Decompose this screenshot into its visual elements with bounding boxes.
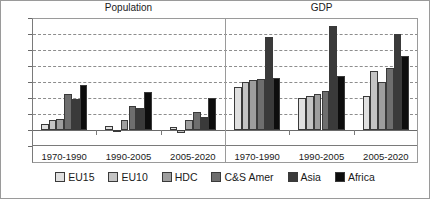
- bar: [314, 94, 322, 130]
- bar: [370, 71, 378, 130]
- bar: [41, 124, 49, 130]
- bar: [249, 80, 257, 130]
- bar: [363, 96, 371, 130]
- legend-item-africa[interactable]: Africa: [335, 171, 375, 183]
- bar: [144, 92, 152, 130]
- legend-label: HDC: [175, 171, 198, 183]
- bar: [234, 87, 242, 130]
- bar: [185, 120, 193, 130]
- y-tick: [28, 130, 32, 131]
- bar: [80, 85, 88, 130]
- legend-item-hdc[interactable]: HDC: [162, 171, 198, 183]
- panel-title-population: Population: [105, 2, 152, 13]
- bar: [306, 96, 314, 130]
- legend-swatch-icon: [108, 172, 118, 182]
- x-tick: [96, 130, 97, 135]
- bar: [72, 99, 80, 130]
- legend-item-eu10[interactable]: EU10: [108, 171, 147, 183]
- bar: [208, 98, 216, 130]
- legend-item-asia[interactable]: Asia: [288, 171, 321, 183]
- bar: [105, 126, 113, 130]
- y-tick: [28, 66, 32, 67]
- panel-separator: [225, 18, 226, 163]
- bar: [170, 127, 178, 130]
- y-tick: [28, 50, 32, 51]
- panel-title-gdp: GDP: [311, 2, 333, 13]
- bar-chart: -101234567 PopulationGDP 1970-19901990-2…: [0, 0, 430, 199]
- bar: [322, 91, 330, 130]
- bar: [121, 120, 129, 130]
- bar: [401, 56, 409, 130]
- legend-swatch-icon: [162, 172, 172, 182]
- legend-label: EU15: [68, 171, 94, 183]
- legend-label: C&S Amer: [224, 171, 273, 183]
- bar: [273, 78, 281, 130]
- legend-item-eu15[interactable]: EU15: [55, 171, 94, 183]
- x-tick: [289, 130, 290, 135]
- x-tick: [354, 130, 355, 135]
- y-tick: [28, 34, 32, 35]
- bar: [242, 82, 250, 130]
- bar: [193, 112, 201, 130]
- bar: [394, 34, 402, 130]
- x-tick-label: 1970-1990: [234, 151, 279, 162]
- bar: [378, 82, 386, 130]
- y-tick: [28, 114, 32, 115]
- legend-swatch-icon: [335, 172, 345, 182]
- y-tick: [28, 146, 32, 147]
- legend-swatch-icon: [55, 172, 65, 182]
- y-tick: [28, 98, 32, 99]
- x-tick-label: 2005-2020: [170, 151, 215, 162]
- legend-swatch-icon: [288, 172, 298, 182]
- chart-legend: EU15EU10HDCC&S AmerAsiaAfrica: [1, 171, 429, 183]
- legend-label: Asia: [301, 171, 321, 183]
- x-tick-label: 1990-2005: [106, 151, 151, 162]
- bar: [298, 98, 306, 130]
- bar: [201, 117, 209, 130]
- y-tick: [28, 82, 32, 83]
- bar: [113, 130, 121, 132]
- bar: [64, 94, 72, 130]
- x-tick-label: 1990-2005: [299, 151, 344, 162]
- bar: [49, 120, 57, 130]
- bar: [386, 68, 394, 130]
- bar: [177, 130, 185, 133]
- legend-swatch-icon: [211, 172, 221, 182]
- x-tick-label: 2005-2020: [363, 151, 408, 162]
- x-tick: [161, 130, 162, 135]
- bar: [56, 119, 64, 130]
- bar: [129, 106, 137, 130]
- legend-label: EU10: [121, 171, 147, 183]
- bar: [136, 108, 144, 130]
- y-tick: [28, 18, 32, 19]
- bar: [257, 79, 265, 130]
- legend-label: Africa: [348, 171, 375, 183]
- bar: [337, 76, 345, 130]
- bar: [329, 26, 337, 130]
- bar: [265, 37, 273, 130]
- legend-item-c-s-amer[interactable]: C&S Amer: [211, 171, 273, 183]
- x-tick-label: 1970-1990: [41, 151, 86, 162]
